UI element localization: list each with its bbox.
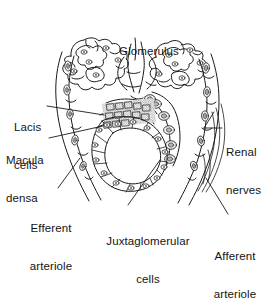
- label-efferent-arteriole-line2: arteriole: [18, 260, 84, 273]
- label-efferent-arteriole: Efferent arteriole: [18, 197, 84, 297]
- label-juxtaglomerular-cells-line1: Juxtaglomerular: [105, 235, 191, 248]
- label-macula-densa-line1: Macula: [6, 154, 44, 167]
- label-renal-nerves-line1: Renal: [226, 146, 261, 159]
- label-renal-nerves-line2: nerves: [226, 184, 261, 197]
- label-afferent-arteriole-line2: arteriole: [201, 288, 269, 301]
- label-renal-nerves: Renal nerves: [226, 121, 261, 221]
- label-glomerulus: Glomerulus: [113, 20, 185, 83]
- label-juxtaglomerular-cells: Juxtaglomerular cells: [105, 210, 191, 302]
- label-afferent-arteriole-line1: Afferent: [201, 250, 269, 263]
- label-juxtaglomerular-cells-line2: cells: [105, 273, 191, 286]
- label-afferent-arteriole: Afferent arteriole: [201, 225, 269, 302]
- label-efferent-arteriole-line1: Efferent: [18, 222, 84, 235]
- label-glomerulus-text: Glomerulus: [113, 45, 185, 58]
